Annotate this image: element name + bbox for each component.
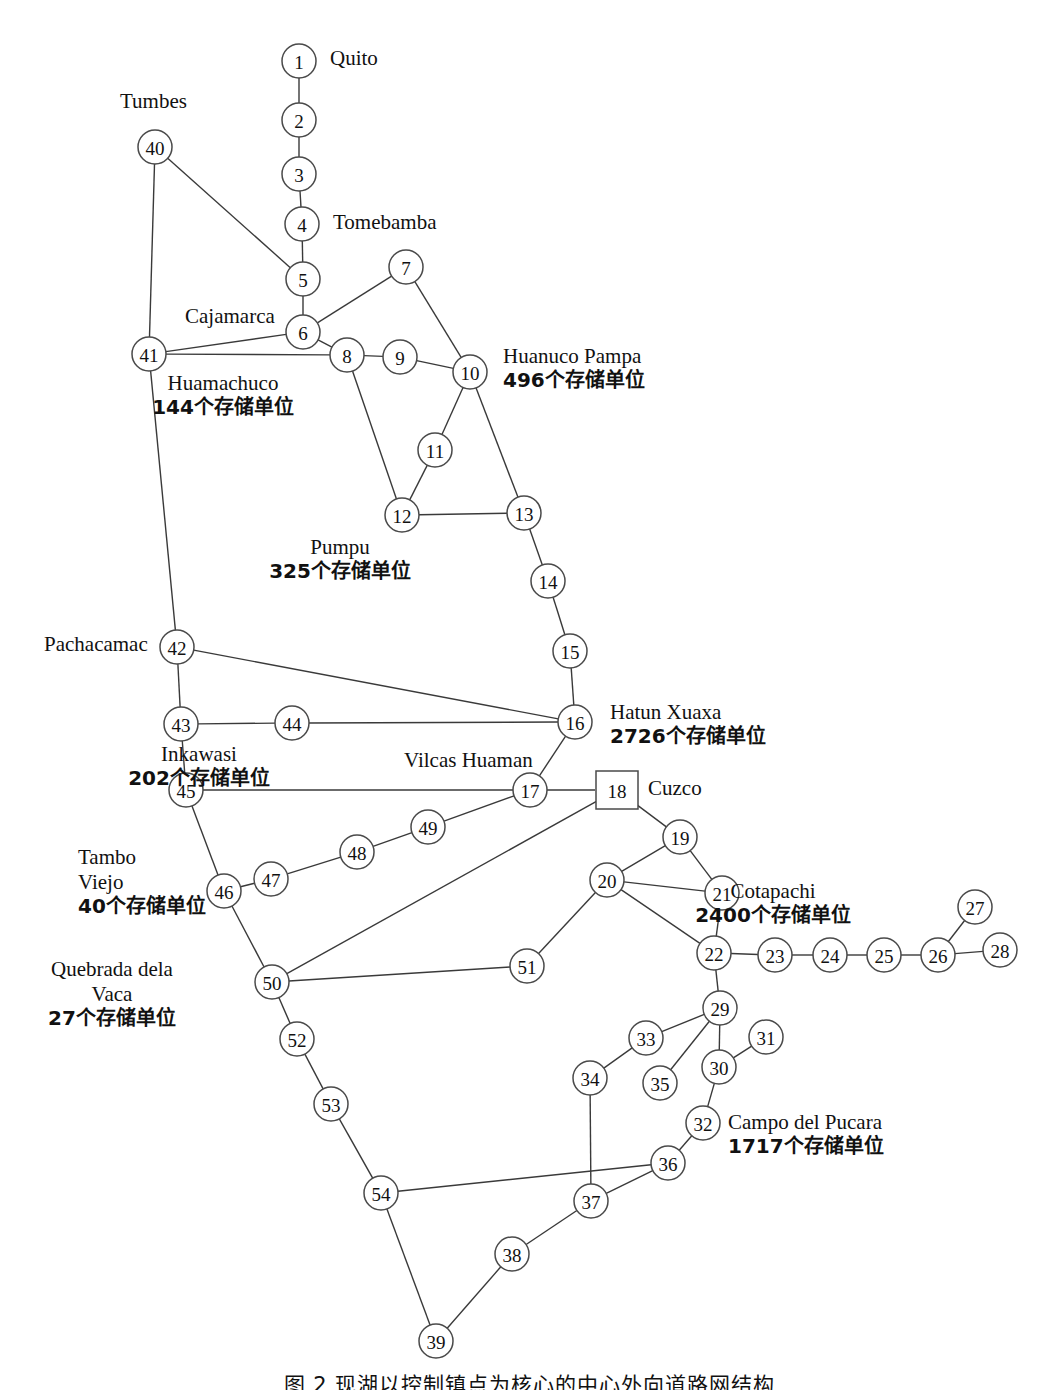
node-circle[interactable] — [282, 103, 316, 137]
node-circle[interactable] — [280, 1022, 314, 1056]
node-circle[interactable] — [758, 938, 792, 972]
graph-node-51[interactable]: 51 — [510, 949, 544, 983]
node-circle[interactable] — [629, 1021, 663, 1055]
node-circle[interactable] — [286, 262, 320, 296]
graph-node-6[interactable]: 6 — [286, 315, 320, 349]
graph-node-54[interactable]: 54 — [364, 1176, 398, 1210]
node-circle[interactable] — [702, 1050, 736, 1084]
node-circle[interactable] — [160, 630, 194, 664]
node-circle[interactable] — [364, 1176, 398, 1210]
graph-node-14[interactable]: 14 — [531, 564, 565, 598]
graph-node-29[interactable]: 29 — [703, 991, 737, 1025]
graph-node-16[interactable]: 16 — [558, 705, 592, 739]
graph-node-31[interactable]: 31 — [749, 1020, 783, 1054]
graph-node-17[interactable]: 17 — [513, 773, 547, 807]
node-circle[interactable] — [749, 1020, 783, 1054]
graph-node-3[interactable]: 3 — [282, 157, 316, 191]
node-circle[interactable] — [510, 949, 544, 983]
graph-node-37[interactable]: 37 — [574, 1184, 608, 1218]
graph-node-25[interactable]: 25 — [867, 938, 901, 972]
node-circle[interactable] — [314, 1087, 348, 1121]
graph-node-24[interactable]: 24 — [813, 938, 847, 972]
node-circle[interactable] — [531, 564, 565, 598]
node-circle[interactable] — [282, 157, 316, 191]
graph-node-12[interactable]: 12 — [385, 498, 419, 532]
graph-node-52[interactable]: 52 — [280, 1022, 314, 1056]
graph-node-7[interactable]: 7 — [389, 250, 423, 284]
node-circle[interactable] — [921, 938, 955, 972]
node-circle[interactable] — [285, 207, 319, 241]
node-circle[interactable] — [419, 1324, 453, 1358]
node-circle[interactable] — [340, 835, 374, 869]
graph-node-50[interactable]: 50 — [255, 965, 289, 999]
node-circle[interactable] — [164, 707, 198, 741]
node-circle[interactable] — [703, 991, 737, 1025]
graph-node-5[interactable]: 5 — [286, 262, 320, 296]
graph-node-2[interactable]: 2 — [282, 103, 316, 137]
node-circle[interactable] — [385, 498, 419, 532]
graph-node-11[interactable]: 11 — [418, 433, 452, 467]
graph-node-47[interactable]: 47 — [254, 862, 288, 896]
graph-node-49[interactable]: 49 — [411, 810, 445, 844]
node-circle[interactable] — [132, 337, 166, 371]
graph-node-35[interactable]: 35 — [643, 1066, 677, 1100]
graph-node-41[interactable]: 41 — [132, 337, 166, 371]
graph-node-32[interactable]: 32 — [686, 1106, 720, 1140]
graph-node-27[interactable]: 27 — [958, 890, 992, 924]
graph-node-30[interactable]: 30 — [702, 1050, 736, 1084]
graph-node-20[interactable]: 20 — [590, 863, 624, 897]
graph-node-33[interactable]: 33 — [629, 1021, 663, 1055]
node-circle[interactable] — [697, 936, 731, 970]
node-circle[interactable] — [383, 340, 417, 374]
graph-node-44[interactable]: 44 — [275, 706, 309, 740]
graph-node-18[interactable]: 18 — [596, 771, 638, 809]
node-circle[interactable] — [983, 933, 1017, 967]
node-circle[interactable] — [286, 315, 320, 349]
node-circle[interactable] — [330, 338, 364, 372]
node-circle[interactable] — [255, 965, 289, 999]
graph-node-36[interactable]: 36 — [651, 1146, 685, 1180]
node-circle[interactable] — [553, 634, 587, 668]
node-circle[interactable] — [643, 1066, 677, 1100]
node-circle[interactable] — [418, 433, 452, 467]
node-circle[interactable] — [813, 938, 847, 972]
graph-node-48[interactable]: 48 — [340, 835, 374, 869]
node-circle[interactable] — [513, 773, 547, 807]
node-circle[interactable] — [663, 820, 697, 854]
graph-node-39[interactable]: 39 — [419, 1324, 453, 1358]
graph-node-46[interactable]: 46 — [207, 874, 241, 908]
node-square[interactable] — [596, 771, 638, 809]
graph-node-42[interactable]: 42 — [160, 630, 194, 664]
node-circle[interactable] — [495, 1237, 529, 1271]
node-circle[interactable] — [558, 705, 592, 739]
node-circle[interactable] — [275, 706, 309, 740]
node-circle[interactable] — [867, 938, 901, 972]
node-circle[interactable] — [282, 44, 316, 78]
node-circle[interactable] — [207, 874, 241, 908]
graph-node-9[interactable]: 9 — [383, 340, 417, 374]
graph-node-38[interactable]: 38 — [495, 1237, 529, 1271]
node-circle[interactable] — [590, 863, 624, 897]
graph-node-53[interactable]: 53 — [314, 1087, 348, 1121]
graph-node-40[interactable]: 40 — [138, 130, 172, 164]
node-circle[interactable] — [453, 355, 487, 389]
graph-node-19[interactable]: 19 — [663, 820, 697, 854]
node-circle[interactable] — [254, 862, 288, 896]
graph-node-34[interactable]: 34 — [573, 1061, 607, 1095]
graph-node-8[interactable]: 8 — [330, 338, 364, 372]
node-circle[interactable] — [651, 1146, 685, 1180]
graph-node-43[interactable]: 43 — [164, 707, 198, 741]
node-circle[interactable] — [958, 890, 992, 924]
graph-node-13[interactable]: 13 — [507, 496, 541, 530]
graph-node-15[interactable]: 15 — [553, 634, 587, 668]
node-circle[interactable] — [574, 1184, 608, 1218]
graph-node-4[interactable]: 4 — [285, 207, 319, 241]
graph-node-26[interactable]: 26 — [921, 938, 955, 972]
node-circle[interactable] — [507, 496, 541, 530]
node-circle[interactable] — [573, 1061, 607, 1095]
graph-node-10[interactable]: 10 — [453, 355, 487, 389]
node-circle[interactable] — [686, 1106, 720, 1140]
node-circle[interactable] — [411, 810, 445, 844]
graph-node-22[interactable]: 22 — [697, 936, 731, 970]
graph-node-23[interactable]: 23 — [758, 938, 792, 972]
